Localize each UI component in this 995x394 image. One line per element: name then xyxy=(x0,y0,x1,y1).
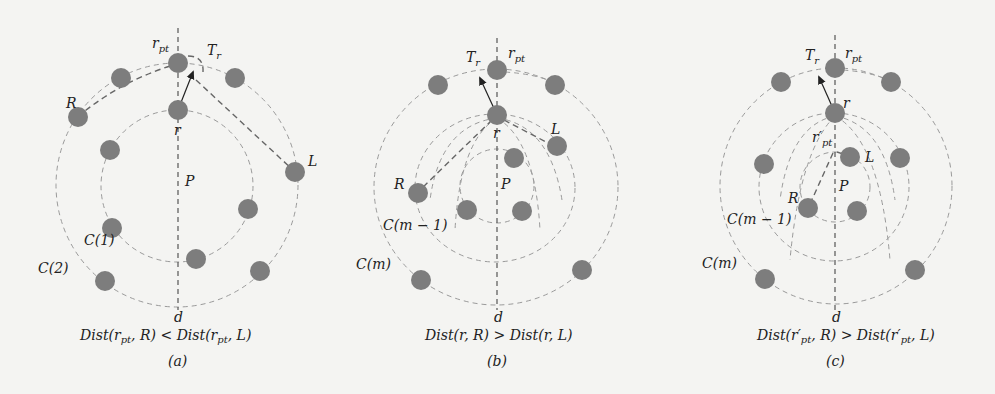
robot xyxy=(186,249,206,269)
label-r: r xyxy=(174,122,182,138)
label-c1: C(1) xyxy=(84,232,115,248)
label-r: r xyxy=(493,125,501,141)
label-target: Tr xyxy=(207,42,222,61)
panel-label-a: (a) xyxy=(168,353,187,369)
label-rpt: rpt xyxy=(845,45,863,64)
robot xyxy=(504,148,524,168)
label-cm: C(m) xyxy=(702,255,737,271)
robot xyxy=(847,201,867,221)
path-to-L xyxy=(196,80,293,170)
path-to-R xyxy=(810,153,833,204)
robot-L xyxy=(840,147,860,167)
robot-r xyxy=(487,105,507,125)
robot xyxy=(771,72,791,92)
robot xyxy=(881,72,901,92)
robot xyxy=(545,75,565,95)
robot xyxy=(95,271,115,291)
robot xyxy=(755,269,775,289)
label-target: Tr xyxy=(805,47,820,66)
robot xyxy=(572,260,592,280)
robot-L xyxy=(285,162,305,182)
robot xyxy=(512,201,532,221)
caption-b: Dist(r, R) > Dist(r, L) xyxy=(424,327,572,343)
path-to-R xyxy=(422,120,492,188)
panel-b: Tr rpt r L R P C(m − 1) C(m) d Dist(r, R… xyxy=(356,38,618,369)
label-L: L xyxy=(864,149,874,165)
caption-a: Dist(rpt, R) < Dist(rpt, L) xyxy=(79,327,251,345)
robot xyxy=(250,261,270,281)
robot xyxy=(100,140,120,160)
label-P: P xyxy=(500,176,511,192)
label-r: r xyxy=(843,95,851,111)
robot-L xyxy=(547,136,567,156)
label-L: L xyxy=(550,121,560,137)
robot-rpt xyxy=(825,58,845,78)
robot-gathering-figure: rpt Tr r P R L C(1) C(2) d Dist(rpt, R) … xyxy=(0,0,995,394)
panel-label-b: (b) xyxy=(487,353,507,369)
label-P: P xyxy=(184,173,195,189)
panel-label-c: (c) xyxy=(826,353,845,369)
robot-rpt xyxy=(168,53,188,73)
label-rpt: rpt xyxy=(152,35,170,54)
robot xyxy=(111,68,131,88)
robot xyxy=(238,199,258,219)
label-L: L xyxy=(307,153,317,169)
robot xyxy=(890,148,910,168)
robot-r xyxy=(168,100,188,120)
robot-R xyxy=(408,183,428,203)
label-R: R xyxy=(787,190,799,206)
path-to-L xyxy=(504,120,550,144)
label-R: R xyxy=(65,95,77,111)
robot xyxy=(457,200,477,220)
label-cm-1: C(m − 1) xyxy=(383,217,447,233)
robot-R xyxy=(798,198,818,218)
robot xyxy=(905,260,925,280)
label-cm-1: C(m − 1) xyxy=(727,211,791,227)
label-rpt: rpt xyxy=(508,45,526,64)
robot xyxy=(225,68,245,88)
label-d: d xyxy=(832,309,841,325)
robot-rpt xyxy=(487,60,507,80)
robot xyxy=(411,270,431,290)
label-d: d xyxy=(494,309,503,325)
robot xyxy=(754,154,774,174)
robot xyxy=(428,75,448,95)
robot-r xyxy=(825,103,845,123)
caption-c: Dist(r′pt, R) > Dist(r′pt, L) xyxy=(756,327,935,345)
label-R: R xyxy=(393,176,405,192)
label-cm: C(m) xyxy=(356,256,391,272)
label-d: d xyxy=(174,309,183,325)
panel-a: rpt Tr r P R L C(1) C(2) d Dist(rpt, R) … xyxy=(38,28,317,369)
label-target: Tr xyxy=(466,49,481,68)
label-P: P xyxy=(838,178,849,194)
circle-cm-1 xyxy=(759,113,909,261)
arc xyxy=(430,118,497,200)
label-c2: C(2) xyxy=(38,260,69,276)
panel-c: Tr rpt r r′pt L P R C(m − 1) C(m) d Dist… xyxy=(702,35,952,369)
